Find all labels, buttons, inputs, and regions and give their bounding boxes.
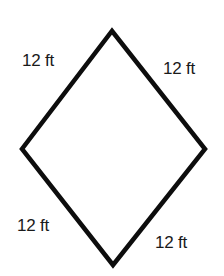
side-label-top-left: 12 ft (22, 52, 54, 69)
side-label-bottom-right: 12 ft (155, 234, 187, 251)
side-label-top-right: 12 ft (163, 60, 195, 77)
side-label-bottom-left: 12 ft (17, 217, 49, 234)
